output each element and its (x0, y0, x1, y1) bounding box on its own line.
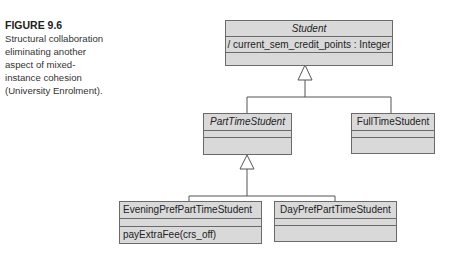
class-attributes (352, 131, 434, 138)
class-operations (204, 138, 291, 154)
class-attributes (275, 219, 396, 226)
class-fulltimestudent: FullTimeStudent (351, 113, 435, 154)
generalization-arrow-parttime (189, 155, 335, 201)
class-student: Student / current_sem_credit_points : In… (225, 20, 393, 66)
class-name: PartTimeStudent (204, 114, 291, 131)
class-attribute: / current_sem_credit_points : Integer (226, 37, 392, 53)
class-name: EveningPrefPartTimeStudent (120, 202, 261, 219)
class-name: DayPrefPartTimeStudent (275, 202, 396, 219)
class-attributes (120, 219, 261, 227)
class-dayprefparttimestudent: DayPrefPartTimeStudent (274, 201, 397, 242)
class-operations (275, 226, 396, 241)
class-attributes (204, 131, 291, 138)
class-name: FullTimeStudent (352, 114, 434, 131)
class-operations (226, 53, 392, 65)
class-operation: payExtraFee(crs_off) (120, 227, 261, 243)
class-parttimestudent: PartTimeStudent (203, 113, 292, 155)
class-operations (352, 138, 434, 153)
class-name: Student (226, 21, 392, 37)
class-eveningprefparttimestudent: EveningPrefPartTimeStudent payExtraFee(c… (119, 201, 262, 244)
generalization-arrow-student (247, 65, 391, 113)
